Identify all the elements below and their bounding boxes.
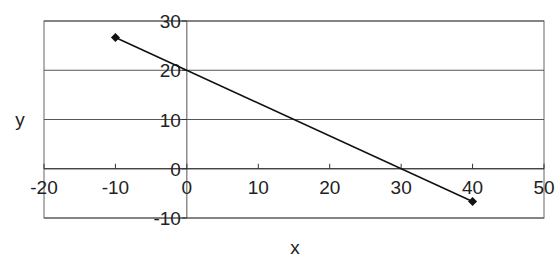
y-tick-label: 10: [160, 110, 181, 131]
x-tick-label: -20: [30, 177, 57, 198]
x-tick-label: 10: [248, 177, 269, 198]
x-tick-label: 20: [319, 177, 340, 198]
y-tick-label: 0: [170, 159, 181, 180]
x-tick-label: 50: [533, 177, 554, 198]
x-tick-label: 40: [462, 177, 483, 198]
x-axis-title: x: [290, 237, 300, 258]
y-tick-label: -10: [153, 208, 180, 229]
chart: -20-1001020304050 -100102030 x y: [0, 0, 557, 263]
y-axis-title: y: [15, 109, 25, 130]
x-tick-label: -10: [102, 177, 129, 198]
x-tick-label: 30: [391, 177, 412, 198]
x-tick-label: 0: [182, 177, 193, 198]
y-tick-label: 30: [160, 11, 181, 32]
